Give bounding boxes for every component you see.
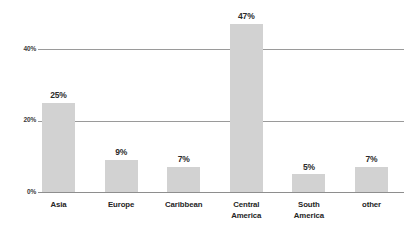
x-axis-category-label: Asia: [23, 199, 95, 210]
bar-group[interactable]: 7%: [355, 167, 388, 192]
x-axis-category-label: Europe: [85, 199, 157, 210]
x-axis-category-label: Caribbean: [148, 199, 220, 210]
bar-value-label: 5%: [284, 163, 333, 172]
x-axis-category-label: South America: [273, 199, 345, 221]
bar-value-label: 7%: [159, 155, 208, 164]
bar-value-label: 7%: [347, 155, 396, 164]
bar-group[interactable]: 47%: [230, 24, 263, 192]
bar-rect[interactable]: [167, 167, 200, 192]
bar-rect[interactable]: [292, 174, 325, 192]
bar-group[interactable]: 5%: [292, 174, 325, 192]
x-axis-category-label: Central America: [210, 199, 282, 221]
bar-group[interactable]: 7%: [167, 167, 200, 192]
bars-layer: 25%Asia9%Europe7%Caribbean47%Central Ame…: [0, 0, 410, 237]
x-axis-category-label: other: [336, 199, 408, 210]
bar-value-label: 25%: [34, 91, 83, 100]
bar-rect[interactable]: [42, 103, 75, 192]
bar-rect[interactable]: [355, 167, 388, 192]
bar-group[interactable]: 25%: [42, 103, 75, 192]
bar-chart: 40% 20% 0% 25%Asia9%Europe7%Caribbean47%…: [0, 0, 410, 237]
bar-rect[interactable]: [230, 24, 263, 192]
bar-rect[interactable]: [105, 160, 138, 192]
bar-group[interactable]: 9%: [105, 160, 138, 192]
bar-value-label: 47%: [222, 12, 271, 21]
bar-value-label: 9%: [97, 148, 146, 157]
